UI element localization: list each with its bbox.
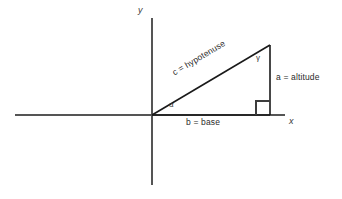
angle-gamma-label: γ <box>256 54 260 62</box>
right-angle-marker <box>256 101 270 115</box>
angle-alpha-label: α <box>169 101 174 109</box>
x-axis-label: x <box>289 117 294 126</box>
base-label: b = base <box>186 118 220 127</box>
altitude-label: a = altitude <box>276 73 320 82</box>
y-axis-label: y <box>138 6 143 15</box>
diagram-canvas: y x α γ c = hypotenuse a = altitude b = … <box>0 0 342 199</box>
